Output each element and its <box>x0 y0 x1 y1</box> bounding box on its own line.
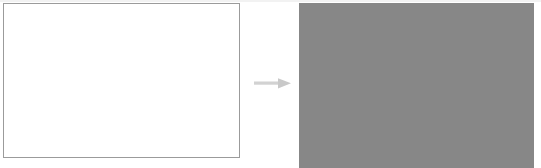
arrow-right-icon <box>254 76 292 91</box>
transformation-arrow-label <box>254 91 255 92</box>
output-image-surface <box>299 3 534 168</box>
output-image-panel[interactable] <box>299 3 534 168</box>
transformation-arrow <box>254 76 292 91</box>
top-hairline-divider <box>0 0 541 2</box>
input-image-panel[interactable] <box>3 3 240 158</box>
figure-root: Image transformation: blank input to uni… <box>0 0 541 168</box>
input-image-surface <box>4 4 239 157</box>
